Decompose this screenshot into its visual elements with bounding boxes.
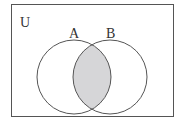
venn-diagram: U A B: [0, 0, 183, 127]
set-a-label: A: [69, 26, 80, 41]
universe-label: U: [20, 15, 30, 30]
set-b-label: B: [106, 26, 115, 41]
